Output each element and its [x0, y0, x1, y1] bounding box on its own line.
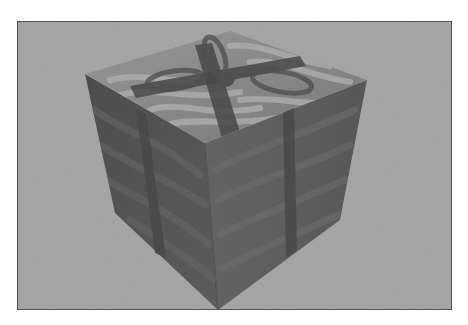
bow-knot: [217, 69, 235, 87]
gift-box-illustration: [0, 0, 468, 325]
figure-stage: [0, 0, 468, 325]
